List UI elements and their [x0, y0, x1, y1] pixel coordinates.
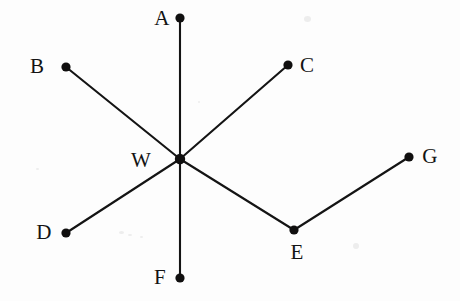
edge-W-E [180, 159, 294, 230]
vertex-dot-a [175, 13, 184, 22]
vertex-label-e: E [290, 242, 303, 263]
edge-W-C [180, 65, 288, 159]
edge-E-G [294, 157, 409, 230]
vertex-dot-g [404, 152, 413, 161]
vertex-dots-group [61, 13, 413, 282]
vertex-dot-e [289, 225, 298, 234]
figure-svg [0, 0, 460, 301]
vertex-label-w: W [131, 150, 151, 171]
vertex-dot-w [175, 154, 185, 164]
edge-D-W [66, 159, 180, 233]
vertex-label-a: A [154, 8, 169, 29]
vertex-label-b: B [30, 56, 44, 77]
vertex-dot-f [175, 273, 184, 282]
vertex-dot-d [61, 228, 70, 237]
edges-group [66, 18, 409, 278]
vertex-label-d: D [36, 222, 51, 243]
vertex-label-c: C [300, 55, 314, 76]
diagram-canvas: ABCWDEFG [0, 0, 460, 301]
edge-B-W [66, 67, 180, 159]
vertex-dot-b [61, 62, 70, 71]
vertex-label-f: F [154, 267, 166, 288]
vertex-dot-c [283, 60, 292, 69]
vertex-label-g: G [422, 146, 437, 167]
